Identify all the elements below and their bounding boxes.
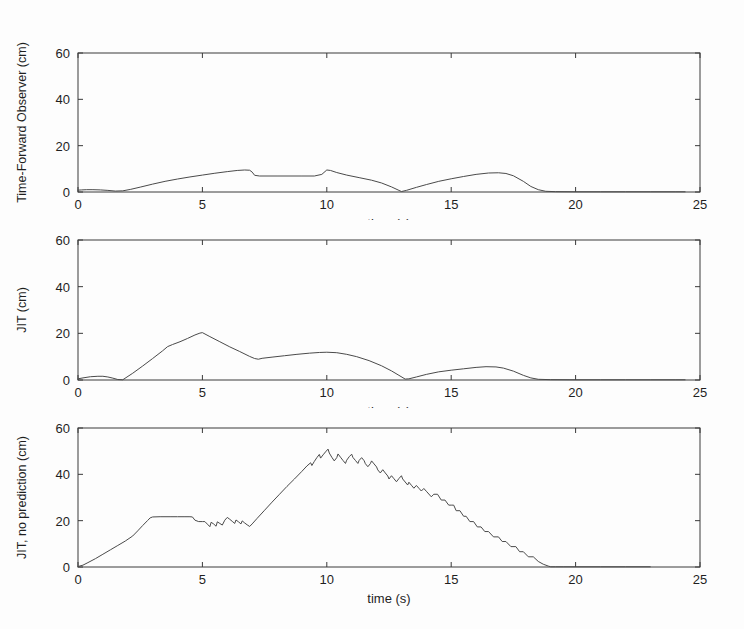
- x-tick-label: 20: [568, 572, 582, 587]
- plot-area-panel-3: 05101520250204060time (s)JIT, no predict…: [0, 390, 744, 629]
- y-axis-title: JIT (cm): [15, 287, 29, 333]
- plot-frame: [78, 53, 700, 192]
- y-tick-label: 0: [63, 560, 70, 575]
- plot-frame: [78, 428, 700, 567]
- y-axis-title: Time-Forward Observer (cm): [15, 42, 29, 203]
- plot-area-panel-2: 05101520250204060time (s)JIT (cm): [0, 200, 744, 408]
- y-axis-title: JIT, no prediction (cm): [15, 436, 29, 559]
- plot-frame: [78, 240, 700, 380]
- y-tick-label: 60: [56, 46, 70, 61]
- chart-panel-time-forward-observer: 05101520250204060time (s)Time-Forward Ob…: [0, 0, 744, 220]
- x-tick-label: 10: [320, 572, 334, 587]
- chart-panel-jit: 05101520250204060time (s)JIT (cm): [0, 200, 744, 408]
- y-tick-label: 20: [56, 514, 70, 529]
- y-tick-label: 20: [56, 326, 70, 341]
- y-tick-label: 40: [56, 467, 70, 482]
- data-curve: [78, 333, 685, 380]
- x-tick-label: 5: [199, 572, 206, 587]
- x-tick-label: 25: [693, 572, 707, 587]
- plot-area-panel-1: 05101520250204060time (s)Time-Forward Ob…: [0, 0, 744, 220]
- y-tick-label: 60: [56, 421, 70, 436]
- y-tick-label: 40: [56, 92, 70, 107]
- x-tick-label: 15: [444, 572, 458, 587]
- y-tick-label: 40: [56, 280, 70, 295]
- data-curve: [78, 170, 685, 192]
- x-tick-label: 0: [74, 572, 81, 587]
- y-tick-label: 60: [56, 233, 70, 248]
- data-curve: [78, 449, 650, 567]
- x-axis-title: time (s): [367, 591, 410, 606]
- y-tick-label: 0: [63, 185, 70, 200]
- figure-container: 05101520250204060time (s)Time-Forward Ob…: [0, 0, 744, 629]
- chart-panel-jit-no-prediction: 05101520250204060time (s)JIT, no predict…: [0, 390, 744, 629]
- y-tick-label: 20: [56, 139, 70, 154]
- y-tick-label: 0: [63, 373, 70, 388]
